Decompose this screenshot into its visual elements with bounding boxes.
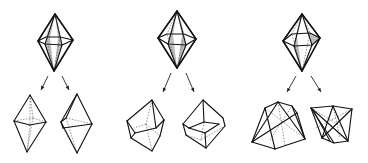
trapezohedron-right — [311, 106, 352, 143]
parent-outline — [158, 11, 196, 68]
visible-edge — [204, 122, 219, 124]
bipyramid-right — [61, 94, 92, 153]
visible-edge — [152, 136, 160, 151]
parent-bipyramid — [283, 14, 320, 71]
visible-edge — [252, 142, 275, 149]
visible-edge — [205, 124, 219, 133]
crystal-twinning-diagram — [0, 0, 368, 163]
girdle-edge — [158, 34, 196, 45]
parent-bipyramid — [38, 14, 73, 71]
rhombohedron-right — [183, 100, 225, 148]
apex-edge — [302, 14, 312, 45]
visible-edge — [333, 106, 348, 141]
visible-edge — [63, 124, 92, 128]
arrow-left-icon — [41, 76, 48, 90]
trapezohedron-left — [252, 102, 305, 149]
crystal-group-1 — [14, 14, 92, 153]
hidden-edge — [311, 108, 344, 128]
arrow-right-icon — [311, 76, 321, 92]
visible-edge — [135, 128, 156, 133]
arrow-right-icon — [62, 76, 69, 90]
visible-edge — [66, 94, 77, 118]
parent-bipyramid — [158, 11, 196, 68]
visible-edge — [77, 124, 92, 153]
bipyramid-left — [14, 95, 46, 152]
arrow-left-icon — [163, 73, 171, 92]
visible-edge — [252, 113, 297, 142]
visible-edge — [203, 100, 223, 118]
girdle-edge — [38, 37, 73, 45]
hidden-edge — [66, 118, 92, 124]
hidden-edge — [134, 124, 146, 128]
visible-edge — [203, 100, 204, 122]
visible-edge — [77, 94, 92, 124]
visible-edge — [348, 109, 352, 141]
apex-edge — [177, 11, 184, 34]
visible-edge — [205, 133, 206, 148]
visible-edge — [14, 95, 30, 121]
visible-edge — [206, 126, 225, 148]
crystal-group-3 — [252, 14, 352, 149]
diagram-canvas — [0, 0, 368, 163]
visible-edge — [127, 100, 152, 121]
visible-edge — [223, 118, 225, 126]
rhombohedron-left — [127, 100, 164, 151]
visible-edge — [14, 121, 30, 125]
visible-edge — [311, 106, 352, 109]
visible-edge — [183, 100, 203, 124]
visible-edge — [186, 135, 206, 148]
visible-edge — [275, 139, 305, 149]
visible-edge — [189, 122, 204, 128]
visible-edge — [131, 133, 135, 138]
visible-edge — [14, 121, 27, 152]
visible-edge — [131, 138, 152, 151]
hidden-edge — [201, 122, 204, 140]
visible-edge — [278, 102, 305, 139]
visible-edge — [322, 138, 348, 143]
arrow-left-icon — [287, 76, 296, 92]
crystal-group-2 — [127, 11, 225, 151]
arrow-right-icon — [186, 73, 194, 92]
